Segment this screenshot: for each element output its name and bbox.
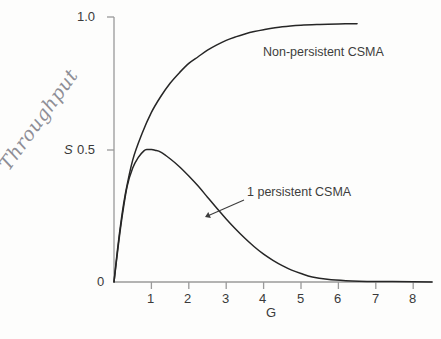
x-tick-label-4: 4 [259, 291, 266, 306]
y-axis-ticks [107, 17, 114, 150]
x-axis-ticks [151, 282, 413, 289]
x-tick-label-7: 7 [372, 291, 379, 306]
x-tick-label-8: 8 [409, 291, 416, 306]
non-persistent-csma-label: Non-persistent CSMA [263, 45, 384, 59]
y-tick-label-0point5: 0.5 [77, 142, 95, 157]
x-axis-title: G [266, 305, 276, 320]
one-persistent-leader-line [205, 200, 244, 218]
series-curve-non-persistent-csma [114, 24, 357, 282]
x-tick-label-1: 1 [147, 291, 154, 306]
x-tick-label-2: 2 [184, 291, 191, 306]
x-tick-label-6: 6 [334, 291, 341, 306]
y-tick-label-1: 1.0 [77, 9, 95, 24]
one-persistent-csma-label: 1 persistent CSMA [247, 185, 351, 199]
series-curve-1-persistent-csma [114, 149, 432, 282]
x-tick-label-5: 5 [297, 291, 304, 306]
x-tick-label-3: 3 [222, 291, 229, 306]
throughput-vs-offered-load-chart: 1.0 0.5 0 1 2 3 4 5 6 7 8 S G Non-persis… [0, 0, 441, 339]
y-axis-title: S [64, 142, 73, 157]
y-tick-label-0: 0 [97, 274, 104, 289]
